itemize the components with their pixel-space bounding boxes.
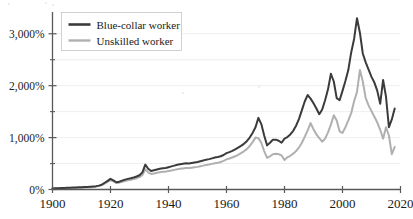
- scan-speck: [258, 86, 260, 88]
- x-tick-label-1920: 1920: [98, 196, 124, 211]
- scan-speck: [52, 4, 54, 6]
- chart-figure: 0%1,000%2,000%3,000% 1900192019401960198…: [0, 0, 413, 219]
- legend-label-1: Unskilled worker: [97, 35, 174, 47]
- chart-legend: Blue-collar workerUnskilled worker: [62, 13, 182, 51]
- wage-growth-line-chart: 0%1,000%2,000%3,000% 1900192019401960198…: [0, 0, 413, 219]
- y-tick-label-1000: 1,000%: [9, 132, 45, 145]
- y-tick-label-0: 0%: [29, 184, 45, 196]
- x-tick-label-1980: 1980: [272, 196, 298, 211]
- x-tick-label-1940: 1940: [156, 196, 182, 211]
- x-tick-label-2020: 2020: [388, 196, 413, 211]
- y-tick-label-3000: 3,000%: [9, 28, 45, 41]
- x-tick-label-1900: 1900: [40, 196, 66, 211]
- scan-speck: [182, 92, 184, 94]
- scan-speck: [8, 3, 10, 5]
- x-tick-label-2000: 2000: [330, 196, 356, 211]
- legend-label-0: Blue-collar worker: [97, 19, 181, 31]
- y-tick-label-2000: 2,000%: [9, 80, 45, 93]
- x-tick-label-1960: 1960: [214, 196, 240, 211]
- scan-speck: [45, 2, 47, 4]
